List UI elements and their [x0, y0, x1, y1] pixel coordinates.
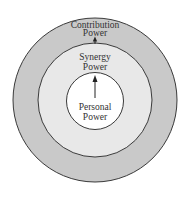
outer-label-line2: Power [83, 28, 108, 38]
middle-label-line2: Power [83, 62, 108, 72]
inner-label-line1: Personal [79, 102, 112, 112]
middle-label-line1: Synergy [79, 52, 111, 62]
inner-label-line2: Power [83, 112, 108, 122]
concentric-power-diagram: Contribution Power Synergy Power Persona… [0, 0, 187, 200]
